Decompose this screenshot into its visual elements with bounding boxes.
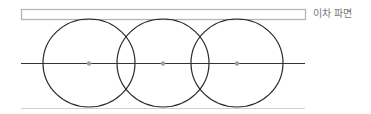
source-point-1 <box>87 61 91 65</box>
legend-swatch <box>22 10 306 20</box>
source-point-2 <box>161 61 165 65</box>
legend-label: 이차 파면 <box>313 7 352 20</box>
source-point-3 <box>235 61 239 65</box>
